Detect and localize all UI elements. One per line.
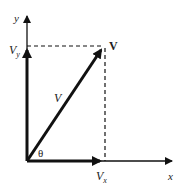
vector-magnitude-label: V: [54, 91, 63, 105]
vx-label-subscript: x: [102, 176, 107, 185]
vy-label-subscript: y: [15, 50, 20, 59]
x-axis-label: x: [167, 170, 173, 182]
vector-components-diagram: y x Vy Vx V V θ: [0, 0, 184, 185]
vector-v-arrow: [27, 50, 101, 161]
vector-tip-label: V: [109, 39, 118, 53]
vy-label: Vy: [9, 43, 20, 59]
y-axis-label: y: [13, 12, 19, 24]
angle-theta-label: θ: [38, 147, 43, 159]
vx-label: Vx: [96, 169, 107, 185]
